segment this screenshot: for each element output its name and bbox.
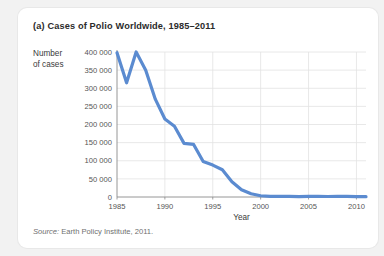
x-axis-tick-label: 1985: [109, 202, 126, 211]
y-axis-tick-label: 0: [108, 193, 112, 202]
source-text: Earth Policy Institute, 2011.: [59, 227, 153, 236]
source-label: Source:: [33, 227, 59, 236]
y-axis-tick-label: 200 000: [85, 120, 112, 129]
x-axis-title: Year: [233, 213, 250, 222]
x-axis-tick-labels: 198519901995200020052010: [109, 202, 365, 211]
source-note: Source: Earth Policy Institute, 2011.: [33, 227, 153, 236]
figure-card: (a) Cases of Polio Worldwide, 1985–2011 …: [18, 8, 378, 248]
y-axis-tick-labels: 050 000100 000150 000200 000250 000300 0…: [85, 48, 112, 202]
x-axis-tick-label: 1990: [156, 202, 173, 211]
x-axis-tick-label: 2010: [348, 202, 365, 211]
y-axis-tick-label: 400 000: [85, 48, 112, 57]
screenshot-page: (a) Cases of Polio Worldwide, 1985–2011 …: [0, 0, 384, 256]
line-chart: 050 000100 000150 000200 000250 000300 0…: [18, 8, 378, 248]
y-axis-tick-label: 250 000: [85, 102, 112, 111]
x-axis-tick-label: 2000: [252, 202, 269, 211]
x-axis-tick-label: 2005: [300, 202, 317, 211]
y-axis-tick-label: 50 000: [89, 175, 112, 184]
y-axis-tick-label: 350 000: [85, 66, 112, 75]
x-axis-tick-label: 1995: [204, 202, 221, 211]
y-axis-tick-label: 150 000: [85, 138, 112, 147]
horizontal-gridlines: [117, 52, 366, 179]
y-axis-tick-label: 300 000: [85, 84, 112, 93]
y-axis-tick-label: 100 000: [85, 156, 112, 165]
